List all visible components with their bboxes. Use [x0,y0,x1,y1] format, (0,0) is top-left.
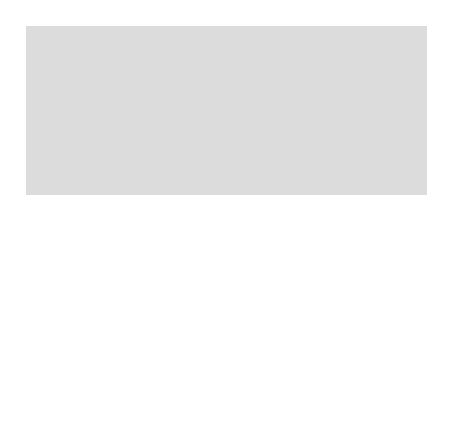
colonial-south-carolina-map [0,0,472,432]
framebody3 [26,26,427,193]
